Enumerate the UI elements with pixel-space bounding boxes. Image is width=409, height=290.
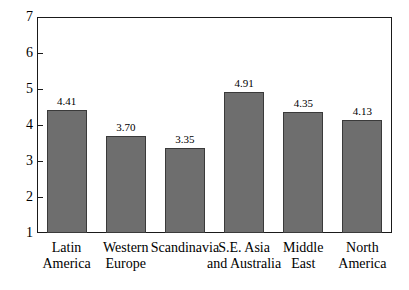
y-axis-tick-mark: [38, 197, 43, 198]
bar-value-label: 4.35: [273, 98, 333, 109]
bar: [165, 148, 205, 233]
bar: [342, 120, 382, 233]
y-axis-tick-label: 3: [13, 154, 33, 168]
y-axis-tick-mark: [38, 89, 43, 90]
bar-value-label: 3.70: [96, 122, 156, 133]
bar: [283, 112, 323, 233]
bar-value-label: 4.91: [214, 78, 274, 89]
bar-value-label: 4.13: [332, 106, 392, 117]
y-axis-tick-mark: [38, 17, 43, 18]
y-axis-tick-label: 6: [13, 46, 33, 60]
y-axis-tick-mark: [38, 161, 43, 162]
y-axis-tick-label: 7: [13, 10, 33, 24]
y-axis-tick-label: 1: [13, 226, 33, 240]
y-axis-tick-label: 5: [13, 82, 33, 96]
category-label-line: Europe: [77, 256, 175, 272]
bar: [224, 92, 264, 233]
category-label: NorthAmerica: [313, 240, 409, 272]
bar-value-label: 4.41: [37, 96, 97, 107]
category-label-line: America: [313, 256, 409, 272]
plot-area: [37, 17, 392, 233]
y-axis-tick-label: 4: [13, 118, 33, 132]
bar: [47, 110, 87, 233]
y-axis-tick-label: 2: [13, 190, 33, 204]
bar-chart: 1234567 4.413.703.354.914.354.13 LatinAm…: [0, 0, 409, 290]
y-axis-tick-mark: [38, 125, 43, 126]
bar: [106, 136, 146, 233]
y-axis-tick-mark: [38, 53, 43, 54]
category-label-line: North: [346, 240, 379, 255]
bar-value-label: 3.35: [155, 134, 215, 145]
